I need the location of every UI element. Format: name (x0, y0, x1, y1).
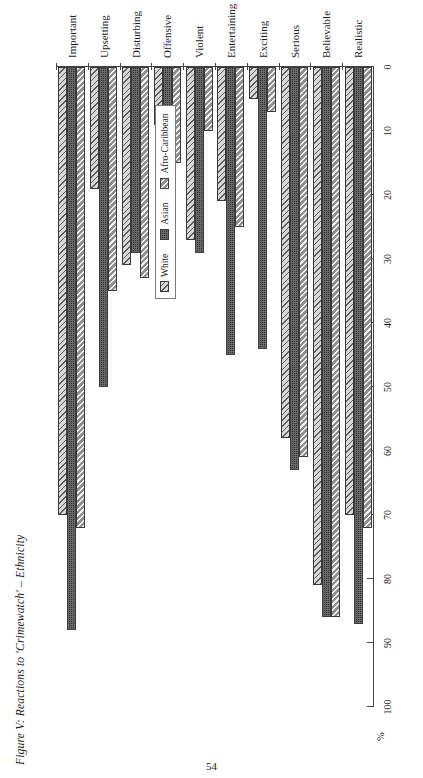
value-tick-label: 70 (382, 510, 393, 520)
legend-item-asian: Asian (159, 203, 169, 240)
category-tick (183, 63, 184, 70)
value-tick (367, 578, 374, 579)
bar-serious-asian (290, 67, 299, 470)
bar-entertaining-asian (226, 67, 235, 355)
bar-exciting-white (249, 67, 258, 99)
bar-upsetting-afro-caribbean (108, 67, 117, 291)
legend-label: White (159, 254, 169, 277)
category-label-upsetting: Upsetting (97, 15, 109, 58)
chart-plot-area: % 0102030405060708090100 RealisticBeliev… (56, 67, 374, 707)
category-tick (56, 63, 57, 70)
category-label-serious: Serious (288, 25, 300, 58)
value-axis-line (373, 67, 374, 707)
category-label-entertaining: Entertaining (224, 4, 236, 58)
category-label-important: Important (65, 15, 77, 58)
legend-label: Asian (159, 203, 169, 225)
bar-important-afro-caribbean (76, 67, 85, 528)
bar-disturbing-afro-caribbean (140, 67, 149, 278)
bar-exciting-asian (258, 67, 267, 349)
value-tick-label: 10 (382, 126, 393, 136)
category-tick (215, 63, 216, 70)
category-label-disturbing: Disturbing (129, 11, 141, 58)
legend-swatch-icon (160, 281, 169, 292)
legend-swatch-icon (160, 178, 169, 189)
bar-realistic-afro-caribbean (362, 67, 371, 528)
value-tick-label: 50 (382, 382, 393, 392)
bar-disturbing-asian (131, 67, 140, 253)
chart-legend: WhiteAsianAfro-Caribbean (154, 105, 175, 299)
bar-exciting-afro-caribbean (267, 67, 276, 112)
figure-rotation-wrapper: Figure V: Reactions to 'Crimewatch' – Et… (12, 9, 412, 769)
category-tick (119, 63, 120, 70)
category-label-believable: Believable (320, 11, 332, 58)
legend-swatch-icon (160, 229, 169, 240)
category-tick (151, 63, 152, 70)
bar-violent-afro-caribbean (203, 67, 212, 131)
bar-upsetting-asian (99, 67, 108, 387)
bar-disturbing-white (122, 67, 131, 265)
value-tick-label: 0 (382, 65, 393, 70)
bar-upsetting-white (90, 67, 99, 189)
category-tick (278, 63, 279, 70)
figure-title: Figure V: Reactions to 'Crimewatch' – Et… (14, 535, 26, 765)
bar-violent-white (185, 67, 194, 240)
bar-important-white (58, 67, 67, 515)
legend-item-afro-caribbean: Afro-Caribbean (159, 113, 169, 188)
value-tick-label: 80 (382, 574, 393, 584)
bar-entertaining-white (217, 67, 226, 201)
value-tick-label: 60 (382, 446, 393, 456)
category-label-violent: Violent (193, 26, 205, 58)
page-number: 54 (0, 760, 423, 772)
legend-label: Afro-Caribbean (159, 113, 169, 173)
value-tick-label: 30 (382, 254, 393, 264)
category-tick (246, 63, 247, 70)
bar-believable-white (312, 67, 321, 585)
figure: Figure V: Reactions to 'Crimewatch' – Et… (12, 9, 412, 769)
value-tick-label: 40 (382, 318, 393, 328)
category-label-exciting: Exciting (256, 21, 268, 58)
value-tick (367, 706, 374, 707)
bar-believable-asian (321, 67, 330, 617)
bar-serious-white (281, 67, 290, 438)
bar-important-asian (67, 67, 76, 630)
value-tick-label: 20 (382, 190, 393, 200)
category-tick (310, 63, 311, 70)
legend-item-white: White (159, 254, 169, 292)
bar-entertaining-afro-caribbean (235, 67, 244, 227)
category-tick (87, 63, 88, 70)
bar-realistic-asian (353, 67, 362, 624)
bar-serious-afro-caribbean (299, 67, 308, 457)
value-axis-title: % (375, 732, 386, 741)
category-tick (342, 63, 343, 70)
category-label-realistic: Realistic (352, 20, 364, 59)
bar-violent-asian (194, 67, 203, 253)
value-tick (367, 642, 374, 643)
category-label-offensive: Offensive (161, 15, 173, 58)
bar-believable-afro-caribbean (330, 67, 339, 617)
value-tick-label: 100 (382, 700, 393, 715)
value-tick-label: 90 (382, 638, 393, 648)
bar-realistic-white (344, 67, 353, 515)
